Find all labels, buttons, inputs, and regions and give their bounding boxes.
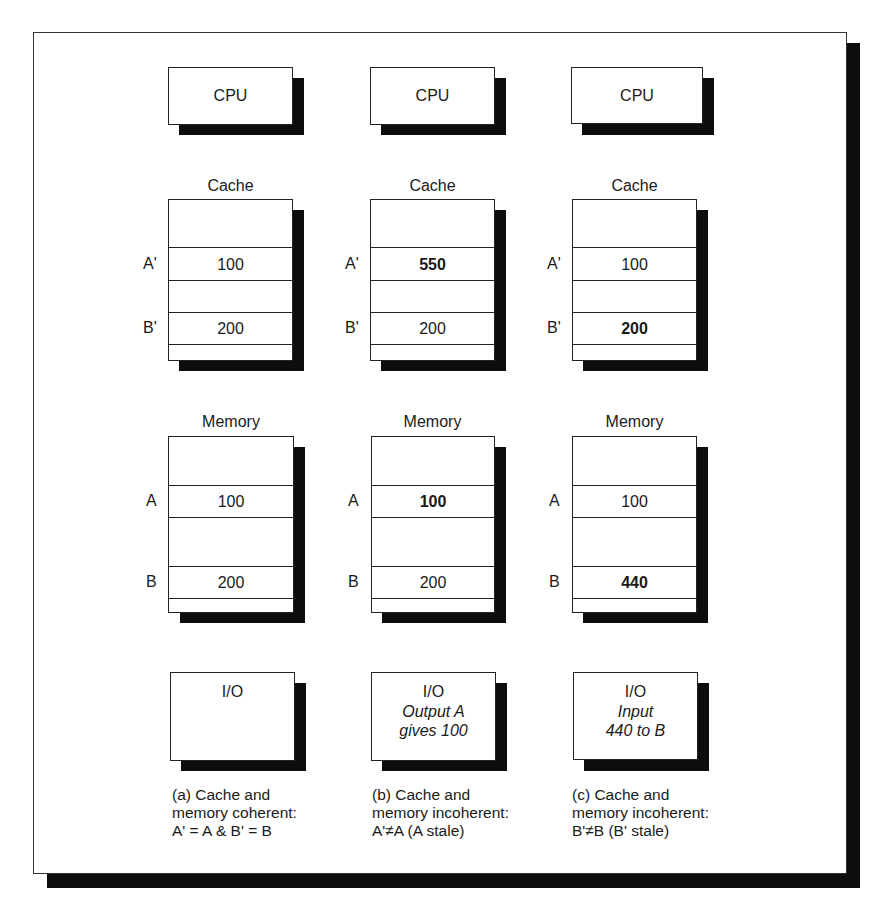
cpu-box: CPU: [168, 67, 293, 125]
memory-row-divider: [372, 566, 494, 567]
memory-row-label-b: B: [549, 573, 560, 591]
cache-title: Cache: [168, 177, 293, 195]
cache-row-divider: [371, 280, 494, 281]
memory-cell-a: 100: [372, 493, 494, 511]
io-box: I/O Input 440 to B: [573, 672, 698, 760]
io-label: I/O: [372, 683, 495, 701]
cache-row-divider: [573, 280, 696, 281]
memory-row-divider: [169, 598, 293, 599]
memory-row-divider: [573, 485, 696, 486]
cache-cell-a-prime: 550: [371, 256, 494, 274]
cache-row-divider: [169, 312, 292, 313]
io-note-line1: Input: [574, 702, 697, 721]
memory-row-divider: [169, 517, 293, 518]
memory-row-divider: [573, 517, 696, 518]
memory-row-divider: [372, 517, 494, 518]
cache-row-label-a-prime: A': [547, 255, 561, 273]
cache-cell-b-prime: 200: [371, 320, 494, 338]
cache-row-label-a-prime: A': [345, 255, 359, 273]
io-label: I/O: [171, 683, 294, 701]
memory-box: 100 200: [168, 436, 294, 613]
memory-row-divider: [573, 598, 696, 599]
cpu-label: CPU: [572, 87, 702, 105]
cpu-box: CPU: [571, 67, 703, 124]
io-label: I/O: [574, 683, 697, 701]
cache-row-label-b-prime: B': [143, 319, 157, 337]
caption-line1: (b) Cache and: [372, 786, 470, 804]
cache-box: 100 200: [572, 199, 697, 361]
cache-row-divider: [169, 344, 292, 345]
memory-cell-b: 200: [372, 574, 494, 592]
cache-row-label-a-prime: A': [143, 255, 157, 273]
memory-row-divider: [573, 566, 696, 567]
memory-cell-b: 200: [169, 574, 293, 592]
io-note-line2: gives 100: [372, 721, 495, 740]
memory-row-divider: [169, 485, 293, 486]
memory-cell-b: 440: [573, 574, 696, 592]
caption-line1: (c) Cache and: [572, 786, 669, 804]
memory-title: Memory: [168, 413, 294, 431]
cache-cell-b-prime: 200: [169, 320, 292, 338]
memory-box: 100 200: [371, 436, 495, 613]
memory-row-label-a: A: [348, 492, 359, 510]
cpu-label: CPU: [371, 87, 494, 105]
cache-box: 100 200: [168, 199, 293, 361]
cache-cell-a-prime: 100: [169, 256, 292, 274]
caption-line3: B'≠B (B' stale): [572, 822, 669, 840]
memory-row-label-a: A: [549, 492, 560, 510]
cache-title: Cache: [370, 177, 495, 195]
memory-cell-a: 100: [573, 493, 696, 511]
io-box: I/O: [170, 672, 295, 761]
caption-line3: A' = A & B' = B: [172, 822, 272, 840]
memory-row-divider: [372, 598, 494, 599]
memory-title: Memory: [370, 413, 495, 431]
cache-cell-a-prime: 100: [573, 256, 696, 274]
caption-line2: memory incoherent:: [572, 804, 709, 822]
memory-row-divider: [372, 485, 494, 486]
cache-row-label-b-prime: B': [547, 319, 561, 337]
cpu-box: CPU: [370, 67, 495, 125]
memory-row-divider: [169, 566, 293, 567]
cache-row-divider: [371, 247, 494, 248]
caption-line2: memory incoherent:: [372, 804, 509, 822]
caption-line3: A'≠A (A stale): [372, 822, 464, 840]
cpu-label: CPU: [169, 87, 292, 105]
memory-box: 100 440: [572, 436, 697, 613]
cache-row-label-b-prime: B': [345, 319, 359, 337]
memory-title: Memory: [572, 413, 697, 431]
cache-row-divider: [573, 312, 696, 313]
io-box: I/O Output A gives 100: [371, 672, 496, 761]
memory-row-label-a: A: [146, 492, 157, 510]
memory-row-label-b: B: [146, 573, 157, 591]
memory-row-label-b: B: [348, 573, 359, 591]
memory-cell-a: 100: [169, 493, 293, 511]
cache-row-divider: [169, 280, 292, 281]
cache-row-divider: [371, 344, 494, 345]
caption-line1: (a) Cache and: [172, 786, 270, 804]
cache-box: 550 200: [370, 199, 495, 361]
cache-row-divider: [573, 247, 696, 248]
io-note-line2: 440 to B: [574, 721, 697, 740]
caption-line2: memory coherent:: [172, 804, 297, 822]
cache-title: Cache: [572, 177, 697, 195]
cache-row-divider: [371, 312, 494, 313]
cache-row-divider: [573, 344, 696, 345]
cache-cell-b-prime: 200: [573, 320, 696, 338]
cache-row-divider: [169, 247, 292, 248]
io-note-line1: Output A: [372, 702, 495, 721]
